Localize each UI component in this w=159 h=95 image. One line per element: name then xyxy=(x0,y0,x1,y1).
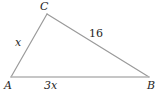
side-label-ac: x xyxy=(15,37,21,48)
triangle-diagram: C A B x 16 3x xyxy=(0,0,159,95)
vertex-label-b: B xyxy=(147,80,155,91)
vertex-label-a: A xyxy=(4,80,12,91)
side-cb-line xyxy=(47,14,149,77)
side-label-cb: 16 xyxy=(89,28,103,39)
side-label-ab: 3x xyxy=(44,80,57,91)
vertex-label-c: C xyxy=(40,1,48,12)
triangle-shape xyxy=(0,0,159,95)
